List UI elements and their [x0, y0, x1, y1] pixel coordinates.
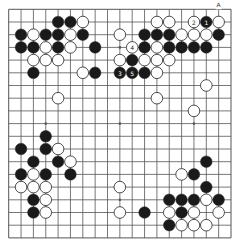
white-stone-disc: [28, 29, 40, 41]
black-stone: [52, 16, 64, 28]
white-stone: [114, 29, 126, 41]
black-stone-disc: [163, 42, 175, 54]
black-stone-disc: [65, 16, 77, 28]
white-stone-disc: [139, 54, 151, 66]
star-point: [119, 199, 122, 202]
white-stone-disc: [188, 207, 200, 219]
black-stone-disc: [40, 143, 52, 155]
star-point: [119, 46, 122, 49]
black-stone: [163, 42, 175, 54]
black-stone-disc: [15, 42, 27, 54]
black-stone: [139, 29, 151, 41]
black-stone: [28, 42, 40, 54]
white-stone: [114, 54, 126, 66]
black-stone: [89, 42, 101, 54]
black-stone-disc: [213, 29, 225, 41]
white-stone-disc: [40, 42, 52, 54]
white-stone: [163, 207, 175, 219]
black-stone-disc: [188, 42, 200, 54]
black-stone-disc: [15, 143, 27, 155]
white-stone: [163, 16, 175, 28]
white-stone: [213, 207, 225, 219]
white-stone-disc: [201, 80, 213, 92]
white-stone-disc: [163, 54, 175, 66]
star-point: [119, 122, 122, 125]
black-stone: [188, 169, 200, 181]
black-stone: [213, 194, 225, 206]
move-number-label: 2: [192, 19, 196, 26]
white-stone-disc: [28, 169, 40, 181]
white-stone: [151, 67, 163, 79]
black-stone: [201, 42, 213, 54]
white-stone: [114, 207, 126, 219]
white-stone: [188, 207, 200, 219]
white-stone: [139, 54, 151, 66]
black-stone-disc: [28, 42, 40, 54]
black-stone: [28, 67, 40, 79]
black-stone-disc: [176, 42, 188, 54]
black-stone: [28, 156, 40, 168]
move-number-label: 5: [130, 70, 134, 77]
white-stone: [163, 54, 175, 66]
black-stone-disc: [28, 194, 40, 206]
markers-layer: A: [216, 1, 222, 9]
white-stone: 4: [126, 42, 138, 54]
white-stone: [188, 29, 200, 41]
white-stone-disc: [77, 67, 89, 79]
white-stone-disc: [40, 194, 52, 206]
black-stone: [176, 194, 188, 206]
black-stone-disc: [52, 156, 64, 168]
black-stone: [188, 194, 200, 206]
black-stone: [188, 42, 200, 54]
go-board[interactable]: 21435 A: [0, 0, 238, 249]
black-stone-disc: [201, 156, 213, 168]
white-stone-disc: [114, 207, 126, 219]
black-stone: [126, 54, 138, 66]
black-stone-disc: [188, 194, 200, 206]
star-point: [193, 122, 196, 125]
white-stone: [77, 16, 89, 28]
white-stone: [114, 181, 126, 193]
white-stone-disc: [15, 181, 27, 193]
black-stone-disc: [52, 29, 64, 41]
white-stone-disc: [213, 16, 225, 28]
black-stone-disc: [139, 207, 151, 219]
white-stone-disc: [151, 16, 163, 28]
white-stone-disc: [163, 207, 175, 219]
black-stone-disc: [40, 29, 52, 41]
black-stone: [201, 181, 213, 193]
black-stone-disc: [89, 42, 101, 54]
white-stone: [77, 67, 89, 79]
white-stone-disc: [65, 42, 77, 54]
black-stone-disc: [151, 29, 163, 41]
black-stone-disc: [52, 42, 64, 54]
black-stone-disc: [28, 207, 40, 219]
black-stone-disc: [163, 194, 175, 206]
white-stone-disc: [65, 156, 77, 168]
white-stone-disc: [188, 105, 200, 117]
white-stone-disc: [52, 143, 64, 155]
black-stone: [139, 42, 151, 54]
black-stone: [77, 29, 89, 41]
black-stone: 5: [126, 67, 138, 79]
white-stone: [65, 156, 77, 168]
move-number-label: 1: [204, 19, 208, 26]
white-stone-disc: [40, 207, 52, 219]
black-stone: 3: [114, 67, 126, 79]
black-stone-disc: [52, 16, 64, 28]
white-stone: [213, 16, 225, 28]
white-stone-disc: [176, 29, 188, 41]
white-stone-disc: [176, 219, 188, 231]
move-number-label: 4: [130, 44, 134, 51]
white-stone-disc: [28, 181, 40, 193]
black-stone: [15, 29, 27, 41]
white-stone: [40, 42, 52, 54]
black-stone-disc: [15, 29, 27, 41]
white-stone: [28, 169, 40, 181]
black-stone: [28, 194, 40, 206]
black-stone: [52, 29, 64, 41]
black-stone-disc: [176, 207, 188, 219]
white-stone-disc: [213, 207, 225, 219]
white-stone: [176, 169, 188, 181]
white-stone: [15, 181, 27, 193]
